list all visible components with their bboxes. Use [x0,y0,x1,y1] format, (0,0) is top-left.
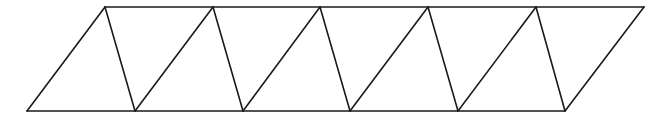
triangle-strip-diagram [0,0,670,122]
falling-diagonal-3 [320,7,350,111]
rising-diagonal-2 [135,7,213,111]
diagram-edges [27,7,644,111]
falling-diagonal-1 [105,7,135,111]
rising-diagonal-3 [243,7,320,111]
rising-diagonal-6 [565,7,644,111]
rising-diagonal-5 [458,7,536,111]
falling-diagonal-5 [536,7,565,111]
falling-diagonal-2 [213,7,243,111]
rising-diagonal-4 [350,7,428,111]
falling-diagonal-4 [428,7,458,111]
rising-diagonal-1 [27,7,105,111]
